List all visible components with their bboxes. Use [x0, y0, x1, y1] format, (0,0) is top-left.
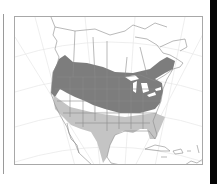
caribbean-islands — [145, 145, 203, 165]
left-divider-line — [3, 14, 4, 174]
range-map — [14, 16, 203, 165]
north-america-map — [15, 17, 203, 165]
right-edge-bar — [210, 0, 217, 184]
breeding-range — [51, 55, 175, 113]
